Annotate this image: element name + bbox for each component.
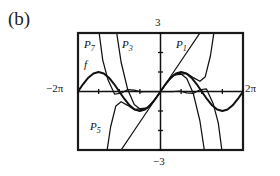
- curve-label-p5-base: P: [90, 120, 97, 132]
- curve-label-f-base: f: [84, 58, 87, 70]
- curve-label-p1-base: P: [176, 38, 183, 50]
- curve-label-p3-sub: 3: [129, 44, 133, 53]
- curve-label-p3-base: P: [122, 38, 129, 50]
- y-min-label: −3: [153, 155, 165, 167]
- curve-label-p5: P5: [90, 120, 101, 135]
- curve-label-p7-base: P: [84, 38, 91, 50]
- curve-label-p1: P1: [176, 38, 187, 53]
- x-min-label: −2π: [46, 82, 63, 94]
- figure-panel-b: (b) 3 −3 −2π 2π P7 P3 P1 P5 f: [0, 0, 280, 176]
- x-max-label: 2π: [245, 82, 256, 94]
- curve-label-p3: P3: [122, 38, 133, 53]
- curve-label-p7: P7: [84, 38, 95, 53]
- plot-canvas: [0, 0, 280, 176]
- curve-label-p5-sub: 5: [97, 126, 101, 135]
- curve-label-p1-sub: 1: [183, 44, 187, 53]
- curve-label-p7-sub: 7: [91, 44, 95, 53]
- curve-label-f: f: [84, 58, 87, 70]
- part-label: (b): [8, 8, 30, 30]
- y-max-label: 3: [155, 16, 161, 28]
